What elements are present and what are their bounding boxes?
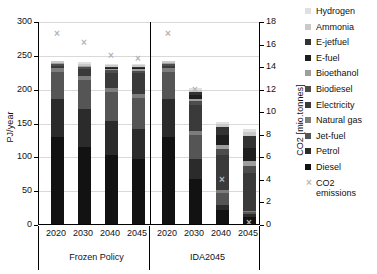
bar-segment-petrol: [132, 129, 145, 159]
bar-ida2045-2045[interactable]: [243, 129, 256, 225]
legend-item-e-jetfuel[interactable]: E-jetfuel: [305, 37, 377, 47]
bar-segment-diesel: [105, 155, 118, 225]
x-tick-label-ida2045-2030: 2030: [179, 228, 209, 238]
legend-label: Petrol: [316, 146, 340, 156]
x-tick-label-ida2045-2040: 2040: [206, 228, 236, 238]
legend-label: Hydrogen: [316, 6, 355, 16]
bar-segment-petrol: [105, 121, 118, 155]
legend-item-biodiesel[interactable]: Biodiesel: [305, 84, 377, 94]
y-axis-right-title: CO2 [mio.tonnes]: [295, 75, 305, 165]
bar-segment-e-jetfuel: [216, 127, 229, 135]
co2-marker-ida2045-2030: [191, 85, 200, 94]
x-axis-left-edge: [38, 226, 39, 270]
y-tick-label-right: 0: [266, 220, 286, 229]
bar-segment-diesel: [216, 210, 229, 225]
legend-label: Natural gas: [316, 115, 362, 125]
bar-frozen-policy-2030[interactable]: [78, 62, 91, 225]
x-tick-label-frozen-policy-2045: 2045: [122, 228, 152, 238]
legend-swatch-icon: [305, 8, 311, 14]
y-tick-label-left: 0: [0, 220, 32, 229]
y-tick-label-right: 14: [266, 62, 286, 71]
bar-segment-jet-fuel: [216, 193, 229, 205]
x-axis: 20202030204020452020203020402045Frozen P…: [38, 226, 260, 274]
plot-area: [38, 22, 260, 225]
legend-swatch-icon: [305, 102, 311, 108]
legend-item-electricity[interactable]: Electricity: [305, 100, 377, 110]
co2-marker-frozen-policy-2020: [53, 29, 62, 38]
bar-segment-jet-fuel: [78, 80, 91, 108]
bar-segment-electricity: [132, 73, 145, 93]
bar-segment-jet-fuel: [51, 72, 64, 99]
bar-ida2045-2020[interactable]: [162, 61, 175, 225]
co2-marker-frozen-policy-2045: [134, 54, 143, 63]
co2-marker-frozen-policy-2030: [80, 38, 89, 47]
legend-swatch-icon: [305, 133, 311, 139]
bar-frozen-policy-2020[interactable]: [51, 61, 64, 225]
y-tick-right: [260, 180, 264, 181]
legend-item-ammonia[interactable]: Ammonia: [305, 22, 377, 32]
bar-segment-petrol: [78, 109, 91, 148]
y-tick-label-right: 2: [266, 197, 286, 206]
chart-root: PJ/year CO2 [mio.tonnes] 050100150200250…: [0, 0, 377, 274]
legend-item-e-fuel[interactable]: E-fuel: [305, 53, 377, 63]
co2-marker-ida2045-2040: [218, 175, 227, 184]
bar-segment-petrol: [51, 99, 64, 137]
legend-swatch-icon: [305, 86, 311, 92]
y-tick-label-left: 150: [0, 119, 32, 128]
bar-ida2045-2030[interactable]: [189, 88, 202, 225]
bar-frozen-policy-2040[interactable]: [105, 64, 118, 225]
bar-segment-electricity: [243, 173, 256, 211]
y-tick-label-left: 250: [0, 51, 32, 60]
gridline: [39, 56, 259, 57]
y-tick-label-right: 18: [266, 17, 286, 26]
y-tick-right: [260, 90, 264, 91]
x-group-label-frozen-policy: Frozen Policy: [47, 252, 147, 262]
legend-swatch-icon: [305, 148, 311, 154]
co2-marker-ida2045-2020: [164, 29, 173, 38]
legend-x-marker-icon: [305, 179, 313, 187]
legend-item-bioethanol[interactable]: Bioethanol: [305, 68, 377, 78]
y-tick-right: [260, 202, 264, 203]
y-tick-label-right: 8: [266, 130, 286, 139]
co2-marker-frozen-policy-2040: [107, 51, 116, 60]
gridline: [39, 22, 259, 23]
legend: HydrogenAmmoniaE-jetfuelE-fuelBioethanol…: [305, 6, 377, 193]
x-tick-label-ida2045-2020: 2020: [152, 228, 182, 238]
x-tick-label-ida2045-2045: 2045: [233, 228, 263, 238]
y-tick-right: [260, 22, 264, 23]
bar-segment-biodiesel: [243, 166, 256, 173]
legend-label: Ammonia: [316, 22, 354, 32]
bar-frozen-policy-2045[interactable]: [132, 64, 145, 225]
y-tick-right: [260, 157, 264, 158]
bar-segment-jet-fuel: [162, 72, 175, 99]
bar-segment-electricity: [78, 69, 91, 76]
gridline: [39, 90, 259, 91]
legend-item-diesel[interactable]: Diesel: [305, 162, 377, 172]
x-tick-label-frozen-policy-2040: 2040: [95, 228, 125, 238]
legend-item-jet-fuel[interactable]: Jet-fuel: [305, 131, 377, 141]
legend-item-natural-gas[interactable]: Natural gas: [305, 115, 377, 125]
bar-segment-electricity: [105, 73, 118, 88]
x-axis-baseline: [39, 224, 259, 225]
bar-segment-diesel: [132, 159, 145, 225]
legend-label: Biodiesel: [316, 84, 353, 94]
bar-segment-electricity: [189, 105, 202, 131]
legend-swatch-icon: [305, 39, 311, 45]
bar-segment-diesel: [78, 147, 91, 225]
legend-swatch-icon: [305, 164, 311, 170]
y-tick-label-right: 10: [266, 107, 286, 116]
y-tick-right: [260, 67, 264, 68]
legend-item-petrol[interactable]: Petrol: [305, 146, 377, 156]
x-tick-label-frozen-policy-2020: 2020: [41, 228, 71, 238]
legend-label: Diesel: [316, 162, 341, 172]
legend-item-co2-emissions[interactable]: CO2 emissions: [305, 178, 377, 188]
legend-swatch-icon: [305, 55, 311, 61]
legend-item-hydrogen[interactable]: Hydrogen: [305, 6, 377, 16]
y-tick-label-left: 200: [0, 85, 32, 94]
bar-segment-petrol: [162, 99, 175, 137]
legend-label: Bioethanol: [316, 68, 359, 78]
legend-label: CO2 emissions: [316, 178, 377, 198]
legend-swatch-icon: [305, 117, 311, 123]
legend-label: Jet-fuel: [316, 131, 346, 141]
y-tick-right: [260, 112, 264, 113]
